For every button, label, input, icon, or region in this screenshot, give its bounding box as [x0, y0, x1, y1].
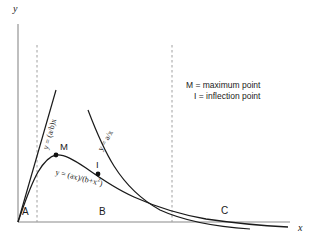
region-label-b: B — [99, 206, 106, 217]
legend: M = maximum point I = inflection point — [186, 80, 260, 102]
legend-entry-inflection: I = inflection point — [186, 91, 260, 102]
plot-canvas — [0, 0, 314, 240]
figure-container: y x y = (a/b)x y = a/x y = (ax)/(b+x2) M… — [0, 0, 314, 240]
maximum-point-label: M — [60, 141, 68, 152]
y-axis-label: y — [13, 3, 17, 14]
region-label-a: A — [22, 206, 29, 217]
inflection-point-label: I — [96, 159, 99, 170]
maximum-point-marker — [54, 153, 59, 158]
x-axis-label: x — [298, 222, 302, 233]
region-label-c: C — [221, 205, 228, 216]
legend-entry-maximum: M = maximum point — [186, 80, 260, 91]
